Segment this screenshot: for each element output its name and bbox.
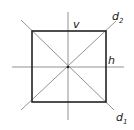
label-d2: d2: [112, 10, 124, 25]
symmetry-diagram: v h d2 d1: [0, 0, 134, 130]
label-d1: d1: [116, 111, 127, 126]
diagonal-d2: [21, 21, 116, 110]
label-h: h: [108, 54, 115, 67]
label-v: v: [73, 18, 80, 31]
center-point: [67, 66, 70, 69]
